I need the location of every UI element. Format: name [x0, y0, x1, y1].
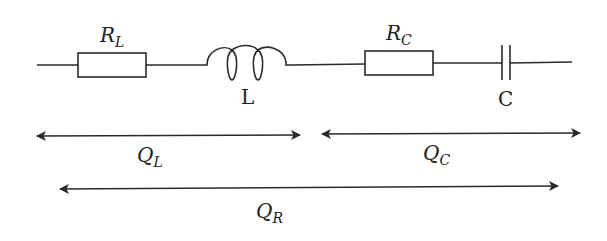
label-c: C [498, 87, 513, 111]
inductor-symbol [205, 46, 292, 81]
circuit-diagram: RL L RC C QL QC QR [0, 0, 607, 241]
label-rc: RC [385, 21, 412, 48]
label-ql: QL [137, 143, 163, 170]
wire-l-to-rc [292, 64, 365, 65]
label-rl: RL [99, 23, 124, 50]
resistor-rl-symbol [78, 53, 146, 77]
wire-right [510, 62, 572, 63]
label-qc: QC [423, 141, 450, 168]
resistor-rc-symbol [365, 51, 433, 75]
arrow-qc [322, 133, 580, 134]
arrow-qr [60, 186, 558, 189]
arrow-ql [37, 135, 300, 136]
label-l: L [241, 85, 254, 109]
label-qr: QR [256, 199, 283, 226]
